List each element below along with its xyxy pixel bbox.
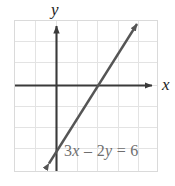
- graph-figure: y x 3x – 2y = 6: [0, 0, 175, 186]
- equation-coefficient-y: 2: [97, 142, 105, 159]
- equation-right-hand-side: 6: [130, 142, 138, 159]
- equation-equals-operator: =: [112, 142, 130, 159]
- y-axis-label: y: [51, 1, 59, 18]
- equation-minus-operator: –: [80, 142, 97, 159]
- equation-annotation: 3x – 2y = 6: [64, 143, 139, 159]
- x-axis-label: x: [162, 76, 170, 93]
- equation-variable-x: x: [72, 142, 79, 159]
